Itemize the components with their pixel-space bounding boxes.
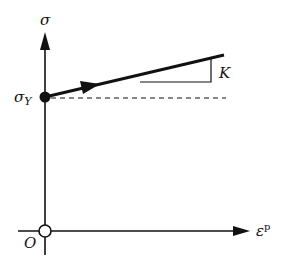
origin-marker [39,225,51,237]
diagram-canvas: σ εp O K σY [0,0,281,271]
hardening-line [45,55,224,97]
slope-label: K [218,64,231,82]
strain-axis-arrowhead-icon [233,226,250,236]
sigma-axis-arrowhead-icon [40,32,50,50]
origin-label: O [24,234,36,252]
yield-stress-label: σY [14,88,33,108]
direction-arrow-icon [80,81,100,94]
strain-axis-label: εp [256,221,270,240]
yield-point-marker [40,92,51,103]
sigma-axis-label: σ [40,11,51,29]
